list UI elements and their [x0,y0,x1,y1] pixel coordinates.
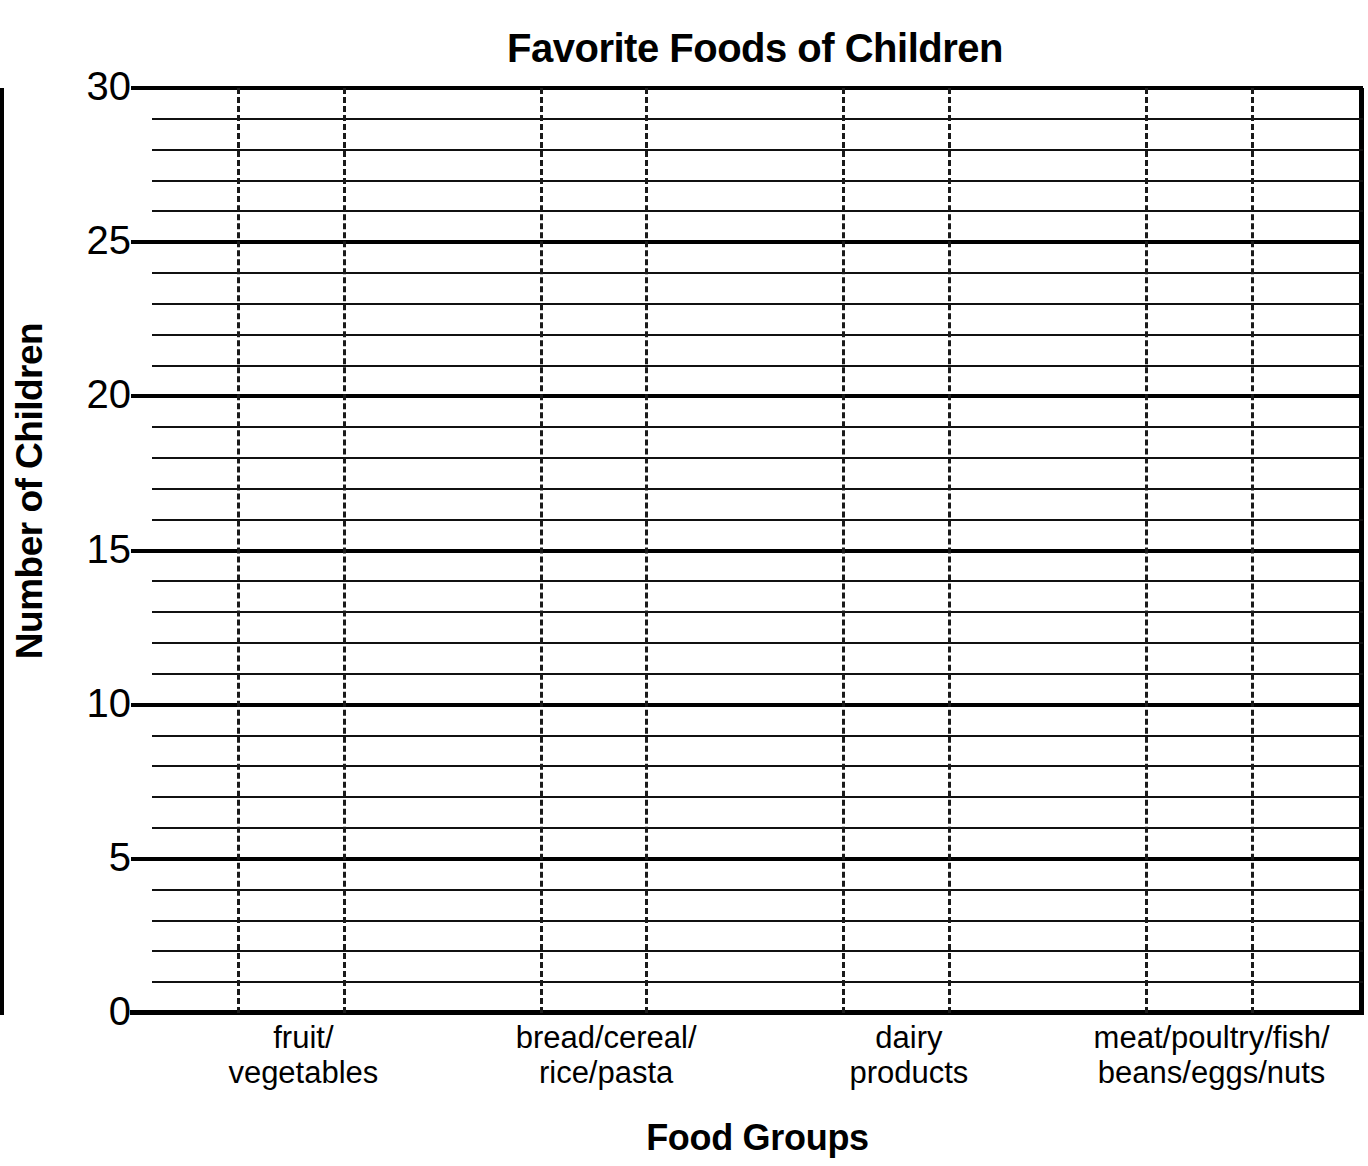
gridline-vertical-dashed [540,88,543,1013]
gridline-major [152,240,1363,244]
gridline-minor [152,827,1363,829]
y-axis-tick-label: 5 [11,837,131,877]
gridline-minor [152,210,1363,212]
y-axis-line [0,88,4,1015]
gridline-minor [152,149,1363,151]
y-axis-tick-mark [131,86,157,90]
chart-container: Favorite Foods of Children Number of Chi… [0,0,1368,1166]
gridline-vertical-dashed [842,88,845,1013]
gridline-major [152,549,1363,553]
gridline-major [152,857,1363,861]
y-axis-tick-label: 10 [11,683,131,723]
gridline-minor [152,365,1363,367]
gridline-minor [152,303,1363,305]
gridline-minor [152,673,1363,675]
gridline-minor [152,334,1363,336]
y-axis-tick-mark [131,549,157,553]
gridline-minor [152,735,1363,737]
plot-area [152,88,1363,1013]
gridline-minor [152,950,1363,952]
y-axis-tick-mark [131,703,157,707]
gridline-vertical-dashed [948,88,951,1013]
gridline-minor [152,765,1363,767]
gridline-vertical-dashed [343,88,346,1013]
gridline-minor [152,519,1363,521]
y-axis-tick-label: 20 [11,374,131,414]
gridline-minor [152,488,1363,490]
gridline-vertical-dashed [1145,88,1148,1013]
gridline-minor [152,426,1363,428]
gridline-major [152,703,1363,707]
y-axis-tick-mark [131,857,157,861]
y-axis-tick-label: 15 [11,529,131,569]
gridline-minor [152,642,1363,644]
gridline-minor [152,981,1363,983]
gridline-minor [152,272,1363,274]
y-axis-tick-label: 25 [11,220,131,260]
gridline-vertical-dashed [645,88,648,1013]
gridline-minor [152,920,1363,922]
chart-title: Favorite Foods of Children [150,28,1360,68]
y-axis-tick-mark [131,240,157,244]
y-axis-tick-mark [131,394,157,398]
gridline-vertical-dashed [1251,88,1254,1013]
gridline-minor [152,180,1363,182]
gridline-minor [152,889,1363,891]
y-axis-tick-label: 30 [11,66,131,106]
gridline-minor [152,457,1363,459]
x-axis-title: Food Groups [152,1117,1363,1159]
x-axis-tick-label: meat/poultry/fish/ beans/eggs/nuts [1030,1021,1368,1090]
gridline-minor [152,796,1363,798]
gridline-major [152,394,1363,398]
y-axis-tick-label: 0 [11,991,131,1031]
gridline-minor [152,611,1363,613]
gridline-major [152,1011,1363,1015]
y-axis-tick-mark [131,1011,157,1015]
gridline-minor [152,580,1363,582]
gridline-minor [152,118,1363,120]
gridline-vertical-dashed [237,88,240,1013]
gridline-major [152,86,1363,90]
